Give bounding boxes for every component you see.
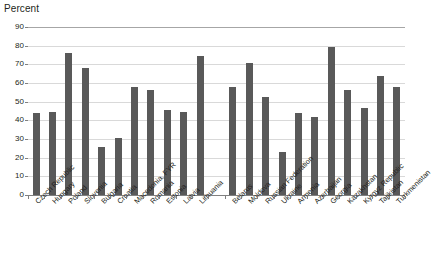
x-tick-mark xyxy=(77,196,78,199)
gridline-90 xyxy=(28,27,405,28)
x-tick-mark xyxy=(241,196,242,199)
x-tick-mark xyxy=(176,196,177,199)
x-tick-mark xyxy=(389,196,390,199)
y-tick-label-40: 40 xyxy=(0,116,24,124)
bar xyxy=(131,87,138,195)
bar xyxy=(311,117,318,195)
y-axis: 0102030405060708090 xyxy=(0,27,24,195)
x-tick-mark xyxy=(143,196,144,199)
bar xyxy=(180,112,187,195)
x-tick-mark xyxy=(159,196,160,199)
x-tick-mark xyxy=(339,196,340,199)
bar xyxy=(279,152,286,195)
y-tick-mark-10 xyxy=(25,176,28,177)
bar xyxy=(33,113,40,195)
bar xyxy=(295,113,302,195)
x-tick-mark xyxy=(225,196,226,199)
x-tick-mark xyxy=(372,196,373,199)
bar xyxy=(49,112,56,195)
y-tick-mark-70 xyxy=(25,64,28,65)
y-tick-mark-30 xyxy=(25,139,28,140)
bar xyxy=(98,147,105,195)
y-tick-label-80: 80 xyxy=(0,42,24,50)
x-tick-mark xyxy=(274,196,275,199)
bar xyxy=(164,110,171,195)
x-tick-mark xyxy=(208,196,209,199)
y-tick-label-50: 50 xyxy=(0,98,24,106)
y-tick-mark-80 xyxy=(25,46,28,47)
x-tick-mark xyxy=(257,196,258,199)
y-tick-label-70: 70 xyxy=(0,60,24,68)
x-tick-mark xyxy=(61,196,62,199)
bar xyxy=(65,53,72,195)
x-tick-mark xyxy=(323,196,324,199)
plot-area xyxy=(28,27,405,195)
bar xyxy=(262,97,269,195)
y-tick-label-10: 10 xyxy=(0,172,24,180)
y-tick-mark-90 xyxy=(25,27,28,28)
y-tick-label-30: 30 xyxy=(0,135,24,143)
y-tick-mark-60 xyxy=(25,83,28,84)
x-axis-line xyxy=(28,195,405,196)
bar xyxy=(229,87,236,195)
x-tick-mark xyxy=(192,196,193,199)
bar xyxy=(246,63,253,195)
y-tick-label-60: 60 xyxy=(0,79,24,87)
x-tick-mark xyxy=(110,196,111,199)
y-tick-label-90: 90 xyxy=(0,23,24,31)
y-tick-mark-40 xyxy=(25,120,28,121)
bar xyxy=(82,68,89,195)
bar xyxy=(393,87,400,195)
x-tick-mark xyxy=(290,196,291,199)
gridline-80 xyxy=(28,46,405,47)
x-tick-mark xyxy=(307,196,308,199)
bar xyxy=(328,47,335,195)
gridline-70 xyxy=(28,64,405,65)
bar xyxy=(147,90,154,195)
bar xyxy=(361,108,368,195)
x-tick-mark xyxy=(356,196,357,199)
y-tick-label-0: 0 xyxy=(0,191,24,199)
x-tick-mark xyxy=(126,196,127,199)
bar xyxy=(344,90,351,195)
y-tick-label-20: 20 xyxy=(0,154,24,162)
x-tick-mark xyxy=(28,196,29,199)
x-tick-mark xyxy=(405,196,406,199)
bar xyxy=(377,76,384,195)
y-tick-mark-50 xyxy=(25,102,28,103)
bar xyxy=(197,56,204,195)
bar xyxy=(115,138,122,195)
x-tick-mark xyxy=(94,196,95,199)
chart-title: Percent xyxy=(4,2,39,15)
y-tick-mark-20 xyxy=(25,158,28,159)
x-tick-mark xyxy=(44,196,45,199)
